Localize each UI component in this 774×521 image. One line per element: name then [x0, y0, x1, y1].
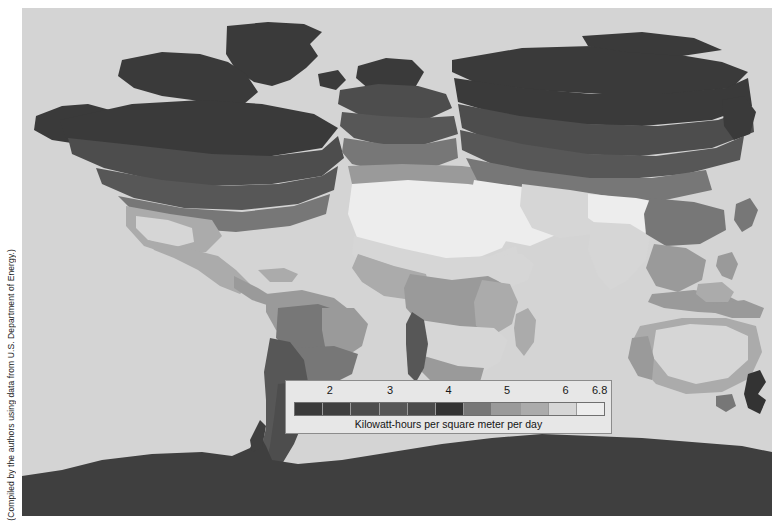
- legend-tick-row: 234566.8: [286, 381, 611, 400]
- legend-swatch-3.6: [408, 403, 436, 415]
- legend-color-bar: [294, 402, 605, 416]
- legend-swatch-6.8: [577, 403, 604, 415]
- world-map-panel: [22, 8, 772, 516]
- legend-tick-5: 5: [504, 384, 510, 396]
- legend-swatch-2.4: [351, 403, 379, 415]
- legend-tick-2: 2: [327, 384, 333, 396]
- legend-tick-3: 3: [387, 384, 393, 396]
- source-credit-text: (Compiled by the authors using data from…: [6, 247, 16, 521]
- legend-swatch-5.4: [492, 403, 520, 415]
- legend-tick-4: 4: [445, 384, 451, 396]
- legend-swatch-1.2: [295, 403, 323, 415]
- solar-radiation-figure: (Compiled by the authors using data from…: [0, 0, 774, 521]
- legend-swatch-3.0: [380, 403, 408, 415]
- legend-swatch-4.2: [436, 403, 464, 415]
- world-map-graphic: [22, 8, 772, 516]
- map-legend: 234566.8 Kilowatt-hours per square meter…: [285, 380, 612, 434]
- legend-swatch-1.8: [323, 403, 351, 415]
- source-credit: (Compiled by the authors using data from…: [0, 8, 21, 521]
- legend-swatch-5.8: [521, 403, 549, 415]
- legend-tick-6.8: 6.8: [592, 384, 607, 396]
- legend-swatch-4.8: [464, 403, 492, 415]
- legend-swatch-6.3: [549, 403, 577, 415]
- legend-tick-6: 6: [562, 384, 568, 396]
- legend-caption: Kilowatt-hours per square meter per day: [286, 418, 611, 430]
